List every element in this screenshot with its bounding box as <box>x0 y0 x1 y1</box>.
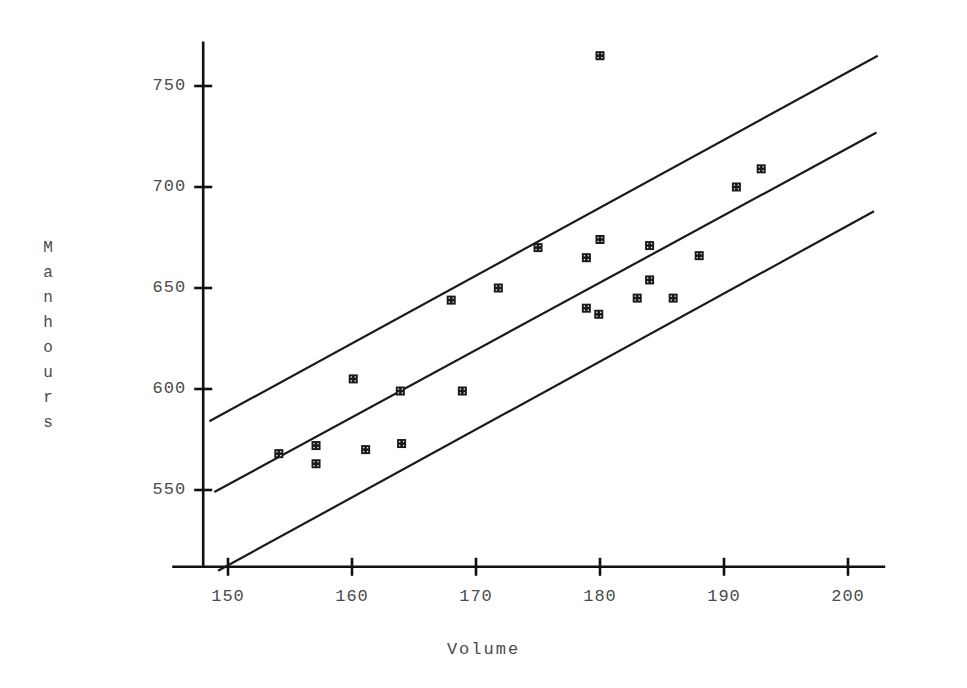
y-axis-label-letter: o <box>34 336 62 361</box>
data-point <box>458 387 467 396</box>
y-axis-label-letter: M <box>34 236 62 261</box>
regression-line-fit-line <box>214 132 876 492</box>
data-point <box>582 304 591 313</box>
data-point <box>732 183 741 192</box>
data-point <box>645 275 654 284</box>
data-point <box>312 441 321 450</box>
data-point <box>594 310 603 319</box>
plot-area <box>0 0 967 688</box>
y-tick-label: 750 <box>93 76 186 95</box>
y-tick-label: 650 <box>93 278 186 297</box>
data-point <box>695 251 704 260</box>
y-tick-label: 700 <box>93 177 186 196</box>
x-tick-label: 160 <box>312 587 392 606</box>
y-axis-label-letter: r <box>34 386 62 411</box>
data-point <box>312 459 321 468</box>
y-axis-label: Manhours <box>34 236 62 436</box>
y-tick-label: 550 <box>93 480 186 499</box>
data-point <box>534 243 543 252</box>
data-point <box>447 296 456 305</box>
regression-line-lower-band <box>218 211 874 571</box>
x-tick-label: 190 <box>684 587 764 606</box>
x-tick-label: 180 <box>560 587 640 606</box>
x-tick-label: 170 <box>436 587 516 606</box>
data-point <box>669 294 678 303</box>
data-point <box>494 284 503 293</box>
data-point <box>397 439 406 448</box>
scatter-chart: Manhours Volume 150160170180190200550600… <box>0 0 967 688</box>
data-point <box>645 241 654 250</box>
y-axis-label-letter: s <box>34 411 62 436</box>
data-point <box>596 235 605 244</box>
x-tick-label: 200 <box>808 587 888 606</box>
data-point <box>596 51 605 60</box>
data-point <box>361 445 370 454</box>
y-axis-label-letter: u <box>34 361 62 386</box>
x-axis-label: Volume <box>0 640 967 659</box>
y-axis-label-letter: h <box>34 311 62 336</box>
data-point <box>582 253 591 262</box>
x-tick-label: 150 <box>188 587 268 606</box>
y-axis-label-letter: a <box>34 261 62 286</box>
y-axis-label-letter: n <box>34 286 62 311</box>
data-point <box>274 449 283 458</box>
y-tick-label: 600 <box>93 379 186 398</box>
data-point <box>396 387 405 396</box>
data-point <box>633 294 642 303</box>
regression-line-upper-band <box>209 56 877 422</box>
data-point <box>757 164 766 173</box>
data-point <box>349 374 358 383</box>
